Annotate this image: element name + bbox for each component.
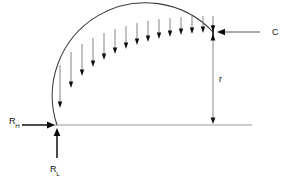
load-arrow (102, 33, 106, 60)
load-arrow-head (190, 28, 194, 35)
load-arrow (168, 18, 172, 37)
arch-group (52, 3, 213, 125)
vertical-reaction-arrow-head (54, 128, 61, 136)
load-arrow (190, 16, 194, 34)
load-arrow-head (135, 39, 139, 46)
load-arrow (179, 17, 183, 35)
crown-thrust-arrow-head (217, 29, 225, 35)
load-arrow-head (102, 54, 106, 61)
load-arrow-head (179, 29, 183, 36)
diagram-canvas: r C R H R L (0, 0, 288, 179)
load-arrow-head (168, 31, 172, 38)
load-arrow (113, 29, 117, 54)
horizontal-reaction-arrow (22, 122, 55, 129)
distributed-load-arrows (58, 16, 215, 108)
load-arrow-head (80, 70, 84, 77)
crown-thrust-arrow (213, 25, 260, 39)
horizontal-reaction-arrow-head (47, 122, 55, 129)
load-arrow-head (69, 82, 73, 89)
free-body-diagram: r C R H R L (0, 0, 288, 179)
load-arrow (58, 65, 62, 108)
vertical-reaction-subscript: L (56, 170, 60, 177)
radius-dimension (211, 34, 216, 124)
load-arrow (69, 52, 73, 88)
load-arrow-head (58, 102, 62, 109)
horizontal-reaction-subscript: H (15, 122, 19, 129)
load-arrow (80, 44, 84, 76)
load-arrow (91, 38, 95, 67)
load-arrow (146, 21, 150, 42)
load-arrow-head (146, 36, 150, 43)
load-arrow-head (201, 27, 205, 34)
radius-arrow-head-bottom (211, 118, 216, 125)
vertical-reaction-arrow (54, 128, 61, 158)
load-arrow (157, 19, 161, 39)
load-arrow (124, 26, 128, 49)
arch-curve (52, 3, 213, 125)
load-arrow-head (113, 48, 117, 55)
load-arrow-head (91, 61, 95, 68)
load-arrow-head (157, 33, 161, 40)
radius-label: r (219, 74, 222, 84)
load-arrow-head (124, 43, 128, 50)
load-arrow (135, 23, 139, 45)
crown-thrust-label: C (272, 27, 279, 37)
